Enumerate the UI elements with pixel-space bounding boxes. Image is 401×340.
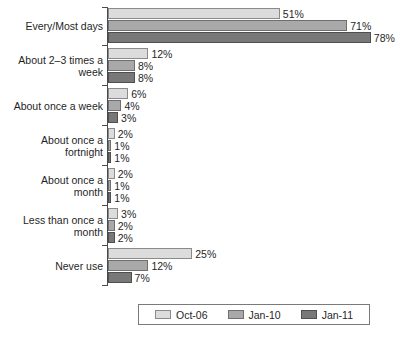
bar-value-label: 12% — [148, 48, 172, 60]
horizontal-bar-chart: Every/Most days51%71%78%About 2–3 times … — [0, 0, 401, 340]
bar-oct-06 — [108, 168, 115, 179]
bar-value-label: 25% — [192, 248, 216, 260]
axis-tick — [102, 125, 108, 126]
bar-jan-11 — [108, 32, 371, 43]
legend-label: Jan-10 — [249, 309, 281, 321]
bar-value-label: 1% — [111, 140, 129, 152]
axis-tick — [102, 165, 108, 166]
bar-row: 71% — [108, 20, 395, 32]
bar-oct-06 — [108, 208, 118, 219]
bar-value-label: 7% — [132, 272, 150, 284]
bar-oct-06 — [108, 8, 280, 19]
bar-jan-10 — [108, 100, 121, 111]
bar-row: 2% — [108, 232, 136, 244]
bars-container: 2%1%1% — [108, 168, 133, 204]
legend-swatch-jan-11 — [301, 310, 317, 319]
bar-value-label: 8% — [135, 72, 153, 84]
bar-oct-06 — [108, 88, 128, 99]
category-label: About once a month — [0, 174, 103, 199]
bar-row: 1% — [108, 192, 133, 204]
bar-group: Every/Most days51%71%78% — [0, 8, 401, 44]
bar-row: 1% — [108, 140, 133, 152]
legend-swatch-jan-10 — [228, 310, 244, 319]
bar-group: Less than once a month3%2%2% — [0, 208, 401, 244]
bar-value-label: 2% — [115, 128, 133, 140]
axis-tick — [102, 205, 108, 206]
bar-jan-11 — [108, 272, 132, 283]
category-label: About 2–3 times a week — [0, 54, 103, 79]
bar-oct-06 — [108, 128, 115, 139]
legend-item-jan-11[interactable]: Jan-11 — [301, 309, 353, 321]
bar-jan-10 — [108, 220, 115, 231]
bar-value-label: 3% — [118, 208, 136, 220]
bars-container: 2%1%1% — [108, 128, 133, 164]
bar-row: 12% — [108, 48, 172, 60]
bar-jan-10 — [108, 260, 148, 271]
bar-row: 12% — [108, 260, 216, 272]
bar-jan-11 — [108, 72, 135, 83]
axis-tick — [102, 45, 108, 46]
bar-group: About once a fortnight2%1%1% — [0, 128, 401, 164]
bar-row: 78% — [108, 32, 395, 44]
bar-value-label: 71% — [347, 20, 371, 32]
bar-jan-11 — [108, 112, 118, 123]
bar-value-label: 1% — [111, 152, 129, 164]
bar-jan-10 — [108, 20, 347, 31]
bar-jan-11 — [108, 232, 115, 243]
axis-tick — [102, 245, 108, 246]
bar-oct-06 — [108, 248, 192, 259]
legend-swatch-oct-06 — [155, 310, 171, 319]
bar-row: 1% — [108, 152, 133, 164]
category-label: Every/Most days — [0, 20, 103, 33]
bar-row: 7% — [108, 272, 216, 284]
category-label: Less than once a month — [0, 214, 103, 239]
bar-jan-10 — [108, 60, 135, 71]
bar-value-label: 78% — [371, 32, 395, 44]
bar-value-label: 6% — [128, 88, 146, 100]
bar-group: About once a week6%4%3% — [0, 88, 401, 124]
bar-value-label: 8% — [135, 60, 153, 72]
category-label: Never use — [0, 260, 103, 273]
axis-tick — [102, 7, 108, 8]
bars-container: 6%4%3% — [108, 88, 146, 124]
axis-tick — [102, 85, 108, 86]
bar-row: 4% — [108, 100, 146, 112]
bar-row: 51% — [108, 8, 395, 20]
bar-value-label: 2% — [115, 168, 133, 180]
plot-area: Every/Most days51%71%78%About 2–3 times … — [0, 0, 401, 296]
bars-container: 51%71%78% — [108, 8, 395, 44]
bar-value-label: 3% — [118, 112, 136, 124]
bar-value-label: 1% — [111, 192, 129, 204]
bars-container: 25%12%7% — [108, 248, 216, 284]
bar-row: 2% — [108, 128, 133, 140]
bar-row: 6% — [108, 88, 146, 100]
bar-row: 25% — [108, 248, 216, 260]
chart-legend: Oct-06Jan-10Jan-11 — [138, 304, 370, 325]
bar-value-label: 12% — [148, 260, 172, 272]
category-label: About once a fortnight — [0, 134, 103, 159]
bar-value-label: 2% — [115, 232, 133, 244]
bar-row: 2% — [108, 220, 136, 232]
bar-row: 3% — [108, 208, 136, 220]
bar-value-label: 1% — [111, 180, 129, 192]
bar-oct-06 — [108, 48, 148, 59]
legend-item-jan-10[interactable]: Jan-10 — [228, 309, 281, 321]
bar-value-label: 51% — [280, 8, 304, 20]
bar-row: 8% — [108, 72, 172, 84]
bar-value-label: 2% — [115, 220, 133, 232]
bar-group: Never use25%12%7% — [0, 248, 401, 284]
legend-label: Oct-06 — [176, 309, 208, 321]
axis-tick — [102, 285, 108, 286]
bar-group: About once a month2%1%1% — [0, 168, 401, 204]
bars-container: 12%8%8% — [108, 48, 172, 84]
bar-row: 8% — [108, 60, 172, 72]
category-label: About once a week — [0, 100, 103, 113]
bar-row: 3% — [108, 112, 146, 124]
legend-label: Jan-11 — [322, 309, 353, 321]
legend-item-oct-06[interactable]: Oct-06 — [155, 309, 208, 321]
bar-group: About 2–3 times a week12%8%8% — [0, 48, 401, 84]
bar-row: 2% — [108, 168, 133, 180]
bar-row: 1% — [108, 180, 133, 192]
bars-container: 3%2%2% — [108, 208, 136, 244]
bar-value-label: 4% — [121, 100, 139, 112]
